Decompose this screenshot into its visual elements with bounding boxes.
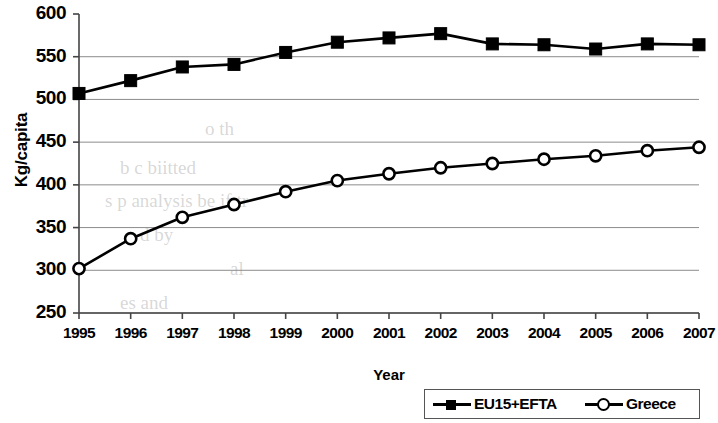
data-point-marker-circle bbox=[73, 263, 84, 274]
data-point-marker-square bbox=[280, 46, 292, 58]
data-point-marker-square bbox=[486, 38, 498, 50]
data-point-marker-circle bbox=[487, 158, 498, 169]
data-point-marker-circle bbox=[280, 186, 291, 197]
data-point-marker-square bbox=[641, 38, 653, 50]
data-point-marker-circle bbox=[383, 168, 394, 179]
legend-marker-open-circle-icon bbox=[585, 397, 623, 411]
data-point-marker-circle bbox=[693, 142, 704, 153]
data-point-marker-square bbox=[538, 39, 550, 51]
data-point-marker-square bbox=[176, 61, 188, 73]
data-point-marker-circle bbox=[177, 212, 188, 223]
data-point-marker-circle bbox=[125, 233, 136, 244]
data-point-marker-circle bbox=[642, 145, 653, 156]
data-point-marker-square bbox=[590, 43, 602, 55]
data-point-marker-square bbox=[693, 39, 705, 51]
data-point-marker-square bbox=[73, 87, 85, 99]
series-line-greece bbox=[79, 147, 699, 268]
data-point-marker-circle bbox=[538, 154, 549, 165]
data-point-marker-circle bbox=[332, 175, 343, 186]
legend-label-greece: Greece bbox=[626, 395, 676, 413]
data-point-marker-square bbox=[228, 58, 240, 70]
data-point-marker-square bbox=[331, 36, 343, 48]
data-point-marker-circle bbox=[435, 162, 446, 173]
line-chart: Kg/capita Year 250300350400450500550600 … bbox=[0, 0, 718, 423]
data-point-marker-circle bbox=[590, 150, 601, 161]
legend-label-eu15-efta: EU15+EFTA bbox=[474, 395, 557, 413]
legend-item-greece: Greece bbox=[585, 390, 676, 418]
chart-legend: EU15+EFTA Greece bbox=[424, 389, 700, 419]
data-point-marker-square bbox=[435, 28, 447, 40]
legend-item-eu15-efta: EU15+EFTA bbox=[433, 390, 557, 418]
data-point-marker-square bbox=[383, 32, 395, 44]
data-point-marker-square bbox=[125, 75, 137, 87]
plot-area bbox=[0, 0, 718, 423]
data-point-marker-circle bbox=[228, 199, 239, 210]
legend-marker-filled-square-icon bbox=[433, 397, 471, 411]
